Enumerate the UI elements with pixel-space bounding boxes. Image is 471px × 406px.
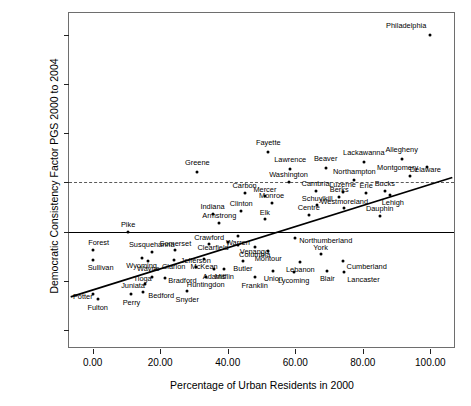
data-point-label: Butler: [233, 265, 252, 272]
data-point-label: Fayette: [256, 139, 281, 146]
regression-line: [69, 13, 454, 347]
data-point-label: Westmoreland: [320, 198, 368, 205]
data-point-label: Beaver: [314, 155, 337, 162]
data-point[interactable]: [164, 277, 167, 280]
data-point[interactable]: [204, 276, 207, 279]
data-point-label: Jefferson: [181, 257, 211, 264]
data-point-label: Armstrong: [202, 212, 236, 219]
data-point[interactable]: [307, 214, 310, 217]
data-point[interactable]: [267, 250, 270, 253]
data-point-label: Clinton: [230, 200, 253, 207]
data-point[interactable]: [294, 237, 297, 240]
data-point[interactable]: [287, 181, 290, 184]
data-point[interactable]: [319, 252, 322, 255]
x-axis-tick-label: 20.00: [148, 357, 173, 368]
y-axis-tick: [64, 133, 69, 134]
data-point-label: Lycoming: [278, 277, 309, 284]
data-point[interactable]: [299, 260, 302, 263]
data-point[interactable]: [343, 271, 346, 274]
y-axis-title: Democratic Consistency Factor PGS 2000 t…: [48, 26, 60, 326]
data-point-label: Franklin: [242, 282, 268, 289]
data-point-label: Bucks: [375, 180, 395, 187]
data-point[interactable]: [91, 248, 94, 251]
data-point[interactable]: [218, 222, 221, 225]
x-axis-tick-label: 60.00: [283, 357, 308, 368]
data-point[interactable]: [147, 260, 150, 263]
y-axis-tick: [64, 182, 69, 183]
data-point[interactable]: [140, 256, 143, 259]
data-point[interactable]: [208, 243, 211, 246]
x-axis-tick: [430, 349, 431, 354]
data-point[interactable]: [388, 194, 391, 197]
data-point[interactable]: [267, 151, 270, 154]
data-point[interactable]: [174, 249, 177, 252]
data-point[interactable]: [130, 292, 133, 295]
data-point[interactable]: [343, 206, 346, 209]
data-point-label: Somerset: [160, 240, 192, 247]
data-point[interactable]: [272, 269, 275, 272]
data-point[interactable]: [365, 191, 368, 194]
data-point-label: Snyder: [175, 296, 198, 303]
data-point-label: Juniata: [121, 282, 145, 289]
x-axis-tick: [363, 349, 364, 354]
data-point[interactable]: [253, 245, 256, 248]
data-point[interactable]: [241, 260, 244, 263]
data-point-label: Dauphin: [366, 205, 394, 212]
data-point-label: Centre: [298, 204, 320, 211]
y-axis-tick: [64, 281, 69, 282]
data-point[interactable]: [196, 170, 199, 173]
data-point[interactable]: [96, 298, 99, 301]
data-point-label: Potter: [73, 293, 93, 300]
data-point[interactable]: [243, 191, 246, 194]
x-axis-tick-label: 100.00: [415, 357, 446, 368]
data-point[interactable]: [263, 218, 266, 221]
data-point[interactable]: [223, 268, 226, 271]
data-point[interactable]: [362, 160, 365, 163]
data-point-label: Philadelphia: [386, 22, 426, 29]
data-point[interactable]: [314, 190, 317, 193]
plot-area: PhiladelphiaAlleghenyLackawannaDelawareF…: [68, 12, 455, 348]
data-point[interactable]: [194, 265, 197, 268]
data-point[interactable]: [429, 34, 432, 37]
data-point[interactable]: [383, 190, 386, 193]
data-point-label: Perry: [123, 299, 141, 306]
data-point[interactable]: [213, 268, 216, 271]
y-axis-tick: [64, 330, 69, 331]
data-point[interactable]: [409, 175, 412, 178]
data-point-label: Lebanon: [286, 266, 315, 273]
data-point-label: Washington: [269, 171, 308, 178]
data-point[interactable]: [292, 271, 295, 274]
data-point-label: Sullivan: [88, 264, 114, 271]
data-point[interactable]: [378, 215, 381, 218]
data-point[interactable]: [150, 251, 153, 254]
data-point[interactable]: [127, 230, 130, 233]
x-axis-tick: [160, 349, 161, 354]
data-point[interactable]: [142, 290, 145, 293]
data-point-label: Blair: [320, 275, 335, 282]
data-point-label: Greene: [185, 159, 210, 166]
x-axis-tick: [228, 349, 229, 354]
data-point-label: Indiana: [200, 203, 224, 210]
data-point-label: Cumberland: [347, 263, 387, 270]
data-point[interactable]: [324, 167, 327, 170]
data-point-label: Wayne: [137, 265, 160, 272]
y-axis-tick: [64, 232, 69, 233]
data-point-label: Erie: [360, 182, 373, 189]
data-point[interactable]: [236, 244, 239, 247]
data-point[interactable]: [253, 275, 256, 278]
scatter-plot-figure: Democratic Consistency Factor PGS 2000 t…: [0, 0, 471, 406]
y-axis-tick: [64, 35, 69, 36]
data-point-label: Pike: [121, 221, 135, 228]
data-point[interactable]: [270, 202, 273, 205]
x-axis-title: Percentage of Urban Residents in 2000: [68, 379, 456, 391]
data-point[interactable]: [400, 158, 403, 161]
data-point-label: Crawford: [194, 234, 224, 241]
data-point[interactable]: [91, 258, 94, 261]
data-point[interactable]: [341, 260, 344, 263]
data-point[interactable]: [186, 289, 189, 292]
data-point[interactable]: [326, 269, 329, 272]
data-point-label: York: [313, 244, 328, 251]
data-point-label: Forest: [88, 239, 109, 246]
data-point[interactable]: [240, 209, 243, 212]
data-point-label: Fulton: [87, 304, 108, 311]
